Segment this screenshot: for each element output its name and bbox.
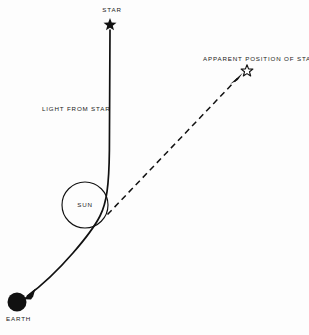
outline-star-icon [241,65,253,76]
earth-disk-icon [8,293,27,312]
earth-label: EARTH [6,316,31,322]
light-ray-path [28,30,111,296]
diagram-canvas [0,0,309,335]
filled-star-icon [104,18,117,30]
light-from-star-label: LIGHT FROM STAR [42,106,111,112]
sun-label: SUN [62,202,108,208]
apparent-arrowhead-icon [230,73,242,84]
lensing-diagram: STAR APPARENT POSITION OF STAR LIGHT FRO… [0,0,309,335]
apparent-position-line [108,79,238,215]
star-label: STAR [0,7,224,13]
apparent-position-label: APPARENT POSITION OF STAR [203,56,309,62]
